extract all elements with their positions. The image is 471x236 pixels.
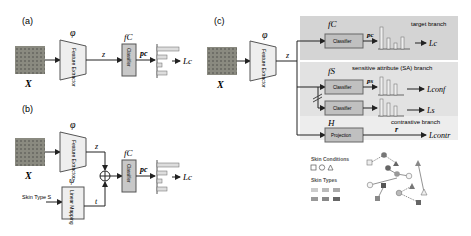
sa-branch-title: sensitive attribute (SA) branch [352, 65, 432, 71]
input-label: X [216, 79, 224, 90]
encoder-symbol: φ [70, 119, 76, 130]
sa-classifier-2-label: Classifier [333, 106, 352, 111]
linear-mapping-label: Linear Mapping [69, 190, 75, 225]
embedding-label: z [94, 142, 99, 151]
loss-label: Lc [182, 172, 192, 182]
panel-b: (b) X Feature Extractor φ z Skin Type S … [15, 104, 192, 225]
feature-extractor-label: Feature Extractor [71, 140, 77, 179]
contrastive-branch-title: contrastive branch [391, 119, 440, 125]
target-loss-label: Lc [428, 39, 437, 48]
target-pred-label: pc [366, 31, 374, 39]
panel-c-label: (c) [214, 16, 225, 26]
classifier-label: Classifier [126, 48, 131, 67]
architecture-diagram: (a) X Feature Extractor φ z Classifier f… [0, 0, 471, 236]
legend-types-title: Skin Types [311, 177, 337, 183]
prediction-label: pc [139, 49, 148, 58]
encoder-symbol: φ [262, 29, 268, 40]
embedding-label: z [285, 51, 290, 60]
sa-loss-s-label: Ls [426, 106, 435, 115]
input-label: X [24, 78, 32, 89]
classifier-label: Classifier [126, 164, 131, 183]
prediction-label: pc [139, 165, 148, 174]
target-branch-title: target branch [411, 21, 446, 27]
feature-extractor-label: Feature Extractor [71, 48, 77, 87]
sa-pred-label: ps [366, 77, 374, 85]
classifier-symbol: fC [124, 148, 134, 158]
panel-c: (c) X Feature Extractor φ z target branc… [207, 16, 458, 205]
projection-label: Projection [331, 133, 352, 138]
square-icon [311, 165, 316, 170]
mapping-symbol: ψ [69, 175, 75, 185]
loss-label: Lc [182, 56, 192, 66]
legend-conditions-title: Skin Conditions [311, 156, 349, 162]
sa-symbol: fS [328, 66, 336, 76]
target-symbol: fC [328, 19, 338, 29]
panel-a-label: (a) [22, 16, 33, 26]
sa-classifier-1-label: Classifier [333, 85, 352, 90]
input-label: X [24, 170, 32, 181]
projection-symbol: H [327, 118, 335, 128]
circle-icon [319, 165, 324, 170]
mapped-label: t [95, 197, 98, 206]
sa-loss-conf-label: Lconf [426, 85, 447, 94]
feature-extractor-label: Feature Extractor [261, 49, 267, 88]
target-classifier-label: Classifier [333, 39, 352, 44]
panel-a: (a) X Feature Extractor φ z Classifier f… [15, 16, 192, 89]
skin-type-label: Skin Type S [22, 194, 52, 200]
input-image [207, 47, 237, 75]
contrastive-loss-label: Lcontr [428, 131, 451, 140]
encoder-symbol: φ [70, 27, 76, 38]
classifier-symbol: fC [124, 32, 134, 42]
panel-b-label: (b) [22, 104, 33, 114]
triangle-icon [328, 165, 333, 170]
input-image [15, 46, 45, 74]
input-image [15, 138, 45, 166]
embedding-label: z [101, 50, 106, 59]
